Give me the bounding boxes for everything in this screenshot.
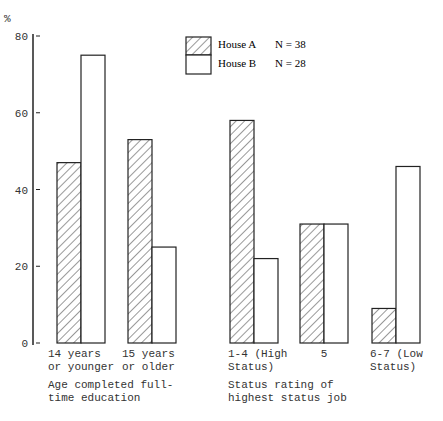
legend: House AN = 38House BN = 28 <box>186 37 306 74</box>
category-label: Status) <box>370 361 416 373</box>
bar-house-a <box>230 120 254 343</box>
bar-house-b <box>254 259 278 343</box>
group-label: time education <box>48 392 140 404</box>
y-axis: %020406080 <box>4 13 40 350</box>
y-tick-label: 20 <box>15 261 28 273</box>
legend-n: N = 38 <box>275 38 306 50</box>
bar-house-a <box>128 140 152 343</box>
legend-n: N = 28 <box>275 57 306 69</box>
category-label: 15 years <box>122 348 175 360</box>
legend-label: House A <box>218 38 256 50</box>
category-label: or younger <box>48 361 114 373</box>
group-label: Age completed full- <box>48 379 173 391</box>
bar-house-a <box>57 163 81 343</box>
category-label: 1-4 (High <box>228 348 287 360</box>
y-tick-label: 0 <box>21 338 28 350</box>
bar-house-b <box>152 247 176 343</box>
y-tick-label: 60 <box>15 108 28 120</box>
category-label: or older <box>122 361 175 373</box>
bar-house-a <box>300 224 324 343</box>
category-label: 6-7 (Low <box>370 348 423 360</box>
bar-house-a <box>372 308 396 343</box>
category-label: 5 <box>321 348 328 360</box>
bar-chart: %020406080 14 yearsor younger15 yearsor … <box>0 0 443 421</box>
x-labels: 14 yearsor younger15 yearsor olderAge co… <box>48 348 423 404</box>
group-label: Status rating of <box>228 379 334 391</box>
bar-house-b <box>81 55 105 343</box>
y-tick-label: 80 <box>15 31 28 43</box>
category-label: 14 years <box>48 348 101 360</box>
group-label: highest status job <box>228 392 347 404</box>
legend-swatch-house-a <box>186 37 211 55</box>
category-label: Status) <box>228 361 274 373</box>
y-tick-label: 40 <box>15 185 28 197</box>
y-axis-unit: % <box>4 13 11 25</box>
legend-label: House B <box>218 57 256 69</box>
bars <box>57 55 420 343</box>
bar-house-b <box>324 224 348 343</box>
legend-swatch-house-b <box>186 55 211 74</box>
bar-house-b <box>396 166 420 343</box>
